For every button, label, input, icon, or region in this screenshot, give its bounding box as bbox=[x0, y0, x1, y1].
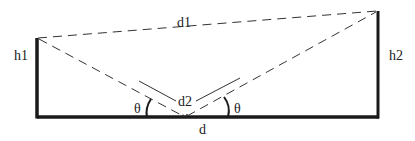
label-d2: d2 bbox=[178, 94, 192, 109]
theta-right-arc-icon bbox=[224, 97, 229, 117]
d2-marker-right bbox=[196, 78, 240, 101]
d2-marker-left bbox=[139, 81, 176, 101]
label-h2: h2 bbox=[389, 48, 403, 63]
reflected-ray-dashed bbox=[187, 12, 376, 116]
label-h1: h1 bbox=[14, 48, 28, 63]
label-theta-left: θ bbox=[134, 101, 141, 116]
reflection-point bbox=[182, 115, 184, 117]
reflection-point-2 bbox=[186, 114, 188, 116]
label-theta-right: θ bbox=[234, 101, 241, 116]
theta-left-arc-icon bbox=[147, 99, 152, 117]
label-d: d bbox=[199, 122, 206, 137]
diagram-canvas: d1 h1 h2 d2 d θ θ bbox=[0, 0, 415, 141]
incident-ray-dashed bbox=[39, 39, 183, 116]
label-d1: d1 bbox=[177, 15, 191, 30]
d1-dashed-line bbox=[38, 11, 377, 38]
